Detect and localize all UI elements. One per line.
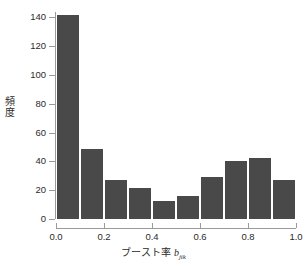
y-axis-tick-label: 100 (4, 70, 46, 80)
histogram-bars (56, 10, 296, 219)
y-axis-tick (49, 75, 55, 76)
x-axis-tick (152, 223, 153, 228)
x-axis-tick-label: 0.8 (228, 232, 268, 242)
x-axis-tick (248, 223, 249, 228)
y-axis-tick-label: 140 (4, 12, 46, 22)
x-axis-tick (56, 223, 57, 228)
x-axis-tick-label: 1.0 (276, 232, 307, 242)
histogram-bar (224, 160, 248, 219)
histogram-bar (104, 179, 128, 219)
x-axis-tick-label: 0.6 (180, 232, 220, 242)
histogram-bar (200, 176, 224, 219)
y-axis-tick (49, 17, 55, 18)
x-axis-tick-label: 0.0 (36, 232, 76, 242)
y-axis-tick (49, 161, 55, 162)
y-axis-tick-label: 20 (4, 185, 46, 195)
y-axis-tick-label: 0 (4, 214, 46, 224)
histogram-bar (80, 148, 104, 219)
x-axis-line (56, 228, 296, 229)
x-axis-tick (104, 223, 105, 228)
y-axis-tick (49, 133, 55, 134)
x-axis-title-text: ブースト率 (121, 247, 174, 258)
x-axis-title-subscript: jik (179, 253, 186, 261)
y-axis-tick (49, 219, 55, 220)
histogram-bar (248, 157, 272, 219)
y-axis-tick (49, 104, 55, 105)
histogram-figure: 頻 度 020406080100120140 0.00.20.40.60.81.… (0, 0, 307, 268)
plot-area (56, 10, 296, 219)
histogram-bar (152, 200, 176, 219)
histogram-bar (56, 14, 80, 219)
y-axis-tick-label: 80 (4, 99, 46, 109)
y-axis-tick-label: 60 (4, 128, 46, 138)
x-axis-tick (296, 223, 297, 228)
x-axis-title: ブースト率 bjik (0, 248, 307, 261)
x-axis-tick (200, 223, 201, 228)
histogram-bar (272, 179, 296, 219)
y-axis-tick-label: 120 (4, 41, 46, 51)
y-axis-tick (49, 190, 55, 191)
x-axis-tick-label: 0.2 (84, 232, 124, 242)
cropped-text-fragment (128, 0, 188, 6)
histogram-bar (128, 187, 152, 219)
y-axis-tick (49, 46, 55, 47)
histogram-bar (176, 195, 200, 220)
x-axis-tick-label: 0.4 (132, 232, 172, 242)
y-axis-tick-label: 40 (4, 156, 46, 166)
y-axis-title-char-2: 度 (3, 108, 17, 119)
